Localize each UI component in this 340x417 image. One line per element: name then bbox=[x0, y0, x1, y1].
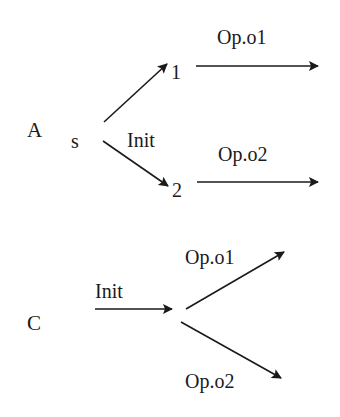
start-state-s: s bbox=[71, 130, 79, 152]
panel-c-label: C bbox=[27, 311, 41, 335]
op-o2-label-c: Op.o2 bbox=[185, 370, 234, 393]
panel-a-label: A bbox=[27, 118, 43, 142]
init-label-a: Init bbox=[127, 129, 155, 151]
op-o1-label-a: Op.o1 bbox=[217, 26, 266, 49]
state-1: 1 bbox=[171, 61, 181, 83]
op-o2-label-a: Op.o2 bbox=[218, 143, 267, 166]
transition-diagram: A s Init 1 2 Op.o1 Op.o2 C Init Op.o1 Op… bbox=[0, 0, 340, 417]
panel-c: C Init Op.o1 Op.o2 bbox=[27, 246, 284, 393]
init-label-c: Init bbox=[95, 280, 123, 302]
panel-a: A s Init 1 2 Op.o1 Op.o2 bbox=[27, 26, 318, 201]
op-o1-label-c: Op.o1 bbox=[185, 246, 234, 269]
state-2: 2 bbox=[172, 179, 182, 201]
arrow-s-to-1 bbox=[104, 64, 167, 122]
